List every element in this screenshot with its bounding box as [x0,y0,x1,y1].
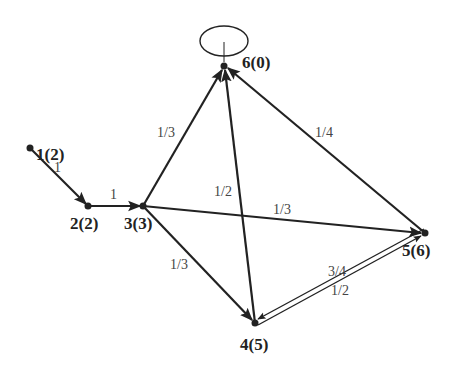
edge-3-6-label: 1/3 [157,125,175,140]
node-2-dot [85,203,92,210]
edge-1-2-label: 1 [54,160,61,175]
node-3-dot [140,203,147,210]
edge-5-6-label: 1/4 [315,125,333,140]
node-5-label: 5(6) [402,241,430,260]
edge-4-6-label: 1/2 [214,184,232,199]
edge-3-4-label: 1/3 [170,257,188,272]
edge-4-5-label: 1/2 [331,283,349,298]
directed-graph: 1(2) 2(2) 3(3) 4(5) 5(6) 6(0) 1 1 1/3 1/… [0,0,462,369]
edge-5-6 [228,68,425,233]
node-6-label: 6(0) [242,53,270,72]
node-1-dot [27,145,34,152]
node-4-label: 4(5) [240,335,268,354]
edge-3-6 [143,70,222,206]
edge-3-5-label: 1/3 [273,202,291,217]
edge-2-3-label: 1 [110,187,117,202]
edge-5-4-label: 3/4 [328,264,346,279]
node-4-dot [252,320,259,327]
edge-3-4 [143,206,252,320]
node-2-label: 2(2) [70,214,98,233]
edge-4-5 [258,236,421,325]
node-5-dot [422,230,429,237]
node-3-label: 3(3) [124,214,152,233]
node-6-dot [221,63,228,70]
